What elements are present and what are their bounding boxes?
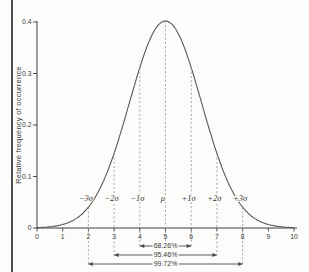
sigma-label: +1σ: [182, 193, 197, 203]
sigma-label: −2σ: [105, 193, 120, 203]
coverage-percentage-label: 99.72%: [154, 260, 178, 267]
x-tick-label: 9: [266, 233, 270, 240]
x-tick-label: 10: [290, 233, 298, 240]
sigma-label: −1σ: [130, 193, 145, 203]
coverage-percentage-label: 68.26%: [154, 242, 178, 249]
scanned-figure-page: 00.10.20.30.4012345678910−3σ−2σ−1σμ+1σ+2…: [0, 0, 309, 272]
y-tick-label: 0.2: [22, 121, 32, 128]
left-arrow-icon: [140, 244, 145, 248]
left-arrow-icon: [88, 262, 93, 266]
y-tick-label: 0: [28, 224, 32, 231]
sigma-label: +2σ: [207, 193, 222, 203]
y-tick-label: 0.3: [22, 70, 32, 77]
x-tick-label: 1: [61, 233, 65, 240]
sigma-label: +3σ: [233, 193, 248, 203]
sigma-label: −3σ: [79, 193, 94, 203]
y-tick-label: 0.4: [22, 18, 32, 25]
right-arrow-icon: [238, 262, 243, 266]
normal-distribution-chart: 00.10.20.30.4012345678910−3σ−2σ−1σμ+1σ+2…: [0, 0, 309, 272]
right-arrow-icon: [187, 244, 192, 248]
sigma-label: μ: [160, 193, 165, 203]
y-tick-label: 0.1: [22, 173, 32, 180]
x-tick-label: 0: [35, 233, 39, 240]
left-arrow-icon: [114, 253, 119, 257]
coverage-percentage-label: 95.46%: [154, 251, 178, 258]
right-arrow-icon: [212, 253, 217, 257]
y-axis-title: Relative frequency of occurrence: [14, 66, 23, 184]
